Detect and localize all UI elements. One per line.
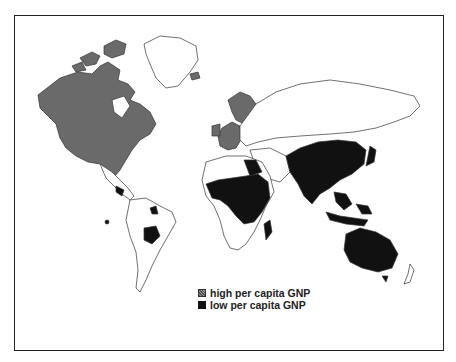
legend-item-high: high per capita GNP (198, 287, 310, 299)
legend-label-high: high per capita GNP (210, 287, 310, 299)
region-australia (344, 228, 398, 272)
region-western-europe (218, 122, 242, 150)
region-south-and-east-asia (286, 140, 366, 204)
legend-item-low: low per capita GNP (198, 299, 310, 311)
legend-label-low: low per capita GNP (210, 299, 306, 311)
legend-swatch-high-icon (198, 289, 206, 297)
map-legend: high per capita GNP low per capita GNP (198, 287, 310, 311)
region-north-america (38, 62, 156, 176)
legend-swatch-low-icon (198, 301, 206, 309)
